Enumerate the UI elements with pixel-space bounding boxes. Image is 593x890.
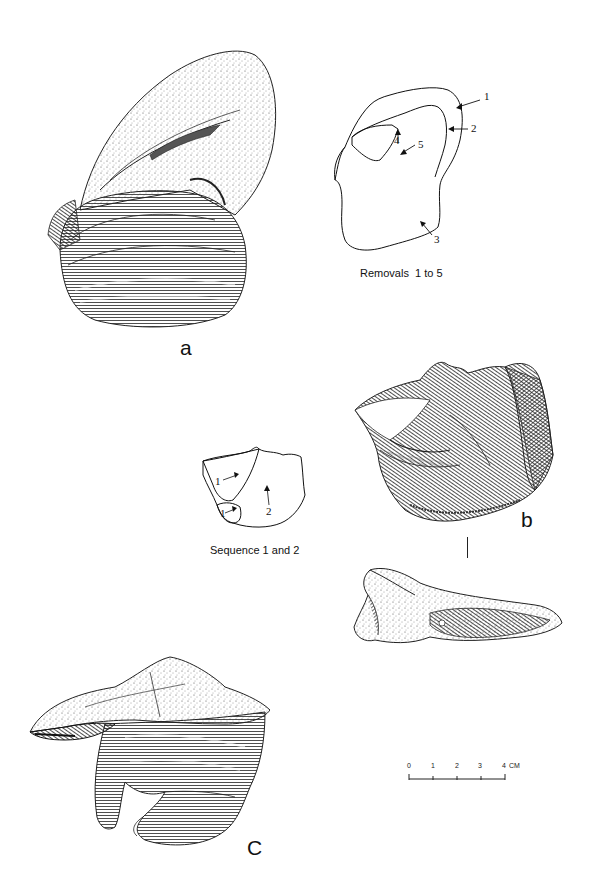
- figure-a-drawing: [40, 40, 280, 330]
- sequence-number-1a: 1: [215, 475, 221, 487]
- sequence-schematic: 1 1 2: [195, 445, 315, 530]
- removal-number-3: 3: [434, 233, 440, 245]
- figure-b-label: b: [521, 508, 533, 532]
- removals-outline-diagram: [330, 85, 500, 255]
- sequence-outline-diagram: [195, 445, 315, 530]
- scale-unit: CM: [509, 762, 520, 769]
- sequence-number-2: 2: [266, 505, 272, 517]
- view-divider-line: [467, 537, 468, 558]
- figure-c-label: C: [247, 836, 262, 860]
- removal-number-4: 4: [394, 134, 400, 146]
- core-b-top-illustration: [350, 355, 565, 525]
- removal-number-2: 2: [471, 122, 477, 134]
- scale-tick-3: 3: [478, 762, 482, 769]
- figure-c-drawing: [25, 652, 270, 857]
- scale-bar-line: [405, 771, 515, 785]
- scale-tick-0: 0: [407, 762, 411, 769]
- removal-number-5: 5: [418, 138, 424, 150]
- removals-caption: Removals 1 to 5: [360, 267, 443, 279]
- scale-tick-2: 2: [455, 762, 459, 769]
- figure-b-side-drawing: [350, 565, 565, 650]
- core-a-illustration: [40, 40, 280, 330]
- scale-bar: 0 1 2 3 4 CM: [405, 762, 545, 792]
- removals-schematic: 1 2 4 5 3: [330, 85, 500, 255]
- removal-number-1: 1: [484, 90, 490, 102]
- sequence-number-1b: 1: [220, 507, 226, 519]
- scale-tick-4: 4: [502, 762, 506, 769]
- scale-tick-1: 1: [431, 762, 435, 769]
- core-c-illustration: [25, 652, 270, 857]
- figure-b-top-drawing: [350, 355, 565, 525]
- figure-a-label: a: [180, 336, 192, 360]
- sequence-caption: Sequence 1 and 2: [210, 544, 299, 556]
- core-b-side-illustration: [350, 565, 565, 650]
